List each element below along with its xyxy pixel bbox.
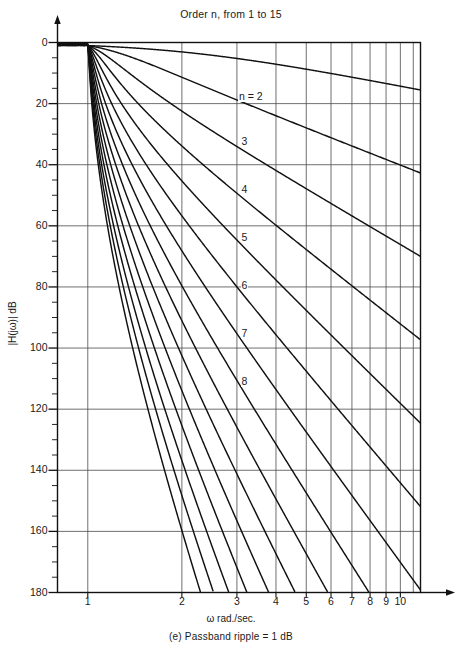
y-tick-label: 160 xyxy=(14,524,48,536)
curve-label-n7: 7 xyxy=(241,327,249,339)
y-tick-label: 80 xyxy=(14,280,48,292)
y-tick-label: 40 xyxy=(14,158,48,170)
x-tick-label: 1 xyxy=(78,595,98,607)
x-tick-label: 4 xyxy=(266,595,286,607)
y-tick-label: 0 xyxy=(14,36,48,48)
x-tick-label: 7 xyxy=(342,595,362,607)
curve-label-n5: 5 xyxy=(241,231,249,243)
y-tick-label: 180 xyxy=(14,586,48,598)
curve-label-n2: n = 2 xyxy=(238,90,264,102)
figure-caption: (e) Passband ripple = 1 dB xyxy=(0,631,462,642)
plot-canvas xyxy=(0,0,462,652)
x-tick-label: 10 xyxy=(390,595,410,607)
y-tick-label: 100 xyxy=(14,341,48,353)
y-tick-label: 120 xyxy=(14,402,48,414)
curve-label-n6: 6 xyxy=(241,279,249,291)
x-tick-label: 6 xyxy=(321,595,341,607)
x-tick-label: 2 xyxy=(172,595,192,607)
x-tick-label: 3 xyxy=(227,595,247,607)
curve-label-n3: 3 xyxy=(241,135,249,147)
y-tick-label: 140 xyxy=(14,463,48,475)
y-tick-label: 20 xyxy=(14,97,48,109)
y-tick-label: 60 xyxy=(14,219,48,231)
x-tick-label: 5 xyxy=(296,595,316,607)
figure: Order n, from 1 to 15 |H(jω)| dB ω rad./… xyxy=(0,0,462,652)
curve-label-n4: 4 xyxy=(241,183,249,195)
x-axis-label: ω rad./sec. xyxy=(0,613,462,624)
curve-label-n8: 8 xyxy=(241,375,249,387)
